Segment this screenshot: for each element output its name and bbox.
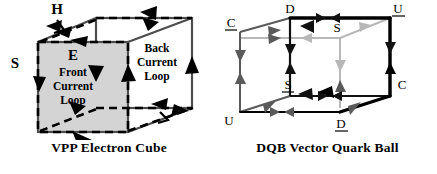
back-loop-line-3: Loop <box>144 70 170 83</box>
vertex-label-s: S <box>333 20 340 35</box>
vertex-label-d-bar: D <box>336 116 345 131</box>
caption-vpp-electron-cube: VPP Electron Cube <box>0 140 218 156</box>
panel-dqb-vector-quark-ball: C D U S U S D C DQB V <box>218 0 437 174</box>
figure-root: H S E Front Current Loop Back Current Lo… <box>0 0 437 174</box>
vertex-label-d: D <box>285 1 294 16</box>
vertex-label-c: C <box>398 77 407 92</box>
label-h: H <box>51 1 63 17</box>
label-e: E <box>68 47 78 63</box>
vertex-label-u-bar: U <box>393 1 403 16</box>
edges-mid <box>240 18 390 112</box>
caption-dqb-vector-quark-ball: DQB Vector Quark Ball <box>218 140 437 156</box>
vpp-electron-cube-diagram: H S E Front Current Loop Back Current Lo… <box>0 0 218 140</box>
vertex-label-u: U <box>224 113 234 128</box>
panel-vpp-electron-cube: H S E Front Current Loop Back Current Lo… <box>0 0 218 174</box>
vertex-label-c-bar: C <box>227 15 236 30</box>
front-loop-line-2: Current <box>53 80 93 92</box>
label-s: S <box>11 55 19 71</box>
dqb-vector-quark-ball-diagram: C D U S U S D C <box>218 0 437 140</box>
vertex-label-s-bar: S <box>284 77 291 92</box>
front-loop-line-3: Loop <box>60 94 86 107</box>
back-loop-line-1: Back <box>145 42 171 54</box>
edges-light <box>240 18 390 108</box>
back-loop-line-2: Current <box>137 56 177 68</box>
front-loop-line-1: Front <box>59 66 87 78</box>
edges-bold <box>240 18 390 112</box>
